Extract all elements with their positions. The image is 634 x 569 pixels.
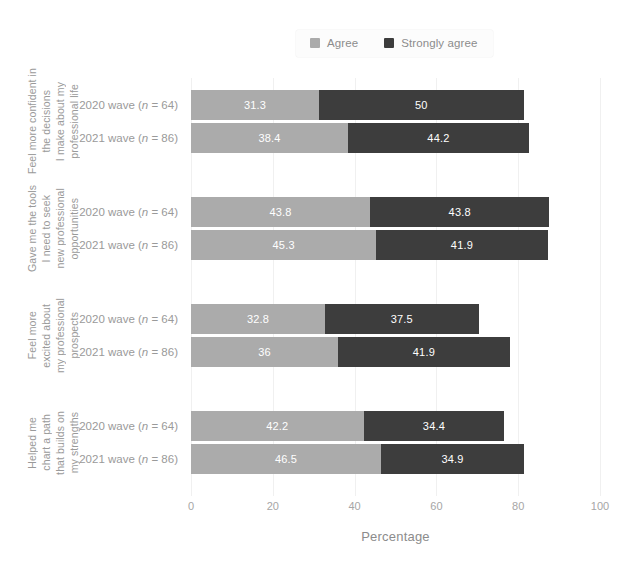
plot-area: 31.35038.444.243.843.845.341.932.837.536… <box>191 78 600 496</box>
bar-segment-value-label: 44.2 <box>427 132 449 144</box>
stacked-bar-row[interactable]: 32.837.5 <box>191 304 479 334</box>
bar-segment-strongly-agree[interactable]: 41.9 <box>338 337 509 367</box>
wave-tick-label: 2021 wave (n = 86) <box>79 337 178 367</box>
stacked-bar-row[interactable]: 42.234.4 <box>191 411 504 441</box>
bar-segment-strongly-agree[interactable]: 34.9 <box>381 444 524 474</box>
x-axis-ticks: 020406080100 <box>191 500 600 520</box>
bar-segment-value-label: 42.2 <box>266 420 288 432</box>
stacked-bar-row[interactable]: 43.843.8 <box>191 197 549 227</box>
bar-segment-value-label: 34.4 <box>423 420 445 432</box>
stacked-bar-row[interactable]: 3641.9 <box>191 337 510 367</box>
x-tick-label: 100 <box>591 500 609 512</box>
bar-segment-value-label: 50 <box>415 99 428 111</box>
bar-segment-value-label: 43.8 <box>449 206 471 218</box>
bar-segment-value-label: 43.8 <box>269 206 291 218</box>
bar-segment-strongly-agree[interactable]: 50 <box>319 90 524 120</box>
bar-segment-agree[interactable]: 42.2 <box>191 411 364 441</box>
legend-item-agree[interactable]: Agree <box>310 37 358 49</box>
bar-segment-agree[interactable]: 36 <box>191 337 338 367</box>
bar-segment-agree[interactable]: 31.3 <box>191 90 319 120</box>
stacked-bar-row[interactable]: 46.534.9 <box>191 444 524 474</box>
wave-tick-label: 2021 wave (n = 86) <box>79 230 178 260</box>
legend-item-label: Strongly agree <box>401 37 477 49</box>
bar-segment-value-label: 41.9 <box>413 346 435 358</box>
chart-legend: AgreeStrongly agree <box>296 30 493 57</box>
x-tick-label: 80 <box>512 500 524 512</box>
bar-segment-strongly-agree[interactable]: 44.2 <box>348 123 529 153</box>
bar-segment-agree[interactable]: 46.5 <box>191 444 381 474</box>
legend-swatch-icon <box>310 38 320 48</box>
stacked-bar-row[interactable]: 31.350 <box>191 90 524 120</box>
legend-swatch-icon <box>384 38 394 48</box>
bar-segment-strongly-agree[interactable]: 37.5 <box>325 304 478 334</box>
bar-segment-strongly-agree[interactable]: 43.8 <box>370 197 549 227</box>
wave-tick-label: 2020 wave (n = 64) <box>79 411 178 441</box>
bar-segment-agree[interactable]: 45.3 <box>191 230 376 260</box>
wave-tick-label: 2020 wave (n = 64) <box>79 304 178 334</box>
bar-segment-value-label: 38.4 <box>258 132 280 144</box>
x-tick-label: 60 <box>430 500 442 512</box>
legend-item-strongly-agree[interactable]: Strongly agree <box>384 37 477 49</box>
legend-item-label: Agree <box>327 37 358 49</box>
bar-segment-value-label: 34.9 <box>441 453 463 465</box>
bar-groups: 31.35038.444.243.843.845.341.932.837.536… <box>191 78 600 496</box>
bar-segment-agree[interactable]: 32.8 <box>191 304 325 334</box>
bar-segment-value-label: 36 <box>258 346 271 358</box>
bar-segment-value-label: 45.3 <box>273 239 295 251</box>
bar-segment-value-label: 41.9 <box>451 239 473 251</box>
x-tick-label: 0 <box>188 500 194 512</box>
stacked-bar-chart: AgreeStrongly agree Feel more confident … <box>0 0 634 569</box>
bar-segment-value-label: 32.8 <box>247 313 269 325</box>
bar-segment-value-label: 37.5 <box>391 313 413 325</box>
bar-segment-strongly-agree[interactable]: 34.4 <box>364 411 505 441</box>
bar-segment-value-label: 46.5 <box>275 453 297 465</box>
bar-segment-agree[interactable]: 38.4 <box>191 123 348 153</box>
stacked-bar-row[interactable]: 45.341.9 <box>191 230 548 260</box>
gridline <box>600 78 601 496</box>
bar-segment-agree[interactable]: 43.8 <box>191 197 370 227</box>
wave-tick-label: 2020 wave (n = 64) <box>79 197 178 227</box>
wave-tick-label: 2020 wave (n = 64) <box>79 90 178 120</box>
x-tick-label: 20 <box>267 500 279 512</box>
bar-segment-value-label: 31.3 <box>244 99 266 111</box>
wave-tick-label: 2021 wave (n = 86) <box>79 123 178 153</box>
y-tick-label-column: 2020 wave (n = 64)2021 wave (n = 86)2020… <box>0 78 186 496</box>
x-tick-label: 40 <box>348 500 360 512</box>
x-axis-title: Percentage <box>191 529 600 544</box>
wave-tick-label: 2021 wave (n = 86) <box>79 444 178 474</box>
bar-segment-strongly-agree[interactable]: 41.9 <box>376 230 547 260</box>
stacked-bar-row[interactable]: 38.444.2 <box>191 123 529 153</box>
